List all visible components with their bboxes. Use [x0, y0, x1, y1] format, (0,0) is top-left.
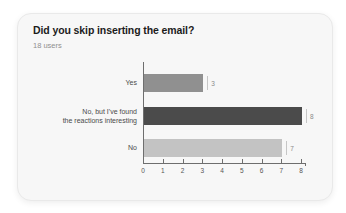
bar-value-marker	[207, 76, 208, 90]
x-tick	[143, 159, 144, 163]
x-tick	[242, 159, 243, 163]
bar-row: No7	[18, 139, 334, 157]
chart: Yes3No, but I've found the reactions int…	[18, 62, 334, 200]
bar-value-label: 7	[290, 145, 294, 152]
x-tick-label: 0	[137, 167, 149, 174]
bar-value-marker	[306, 109, 307, 123]
x-tick-label: 1	[157, 167, 169, 174]
bar-value-label: 3	[211, 80, 215, 87]
x-tick-label: 4	[216, 167, 228, 174]
bar	[144, 107, 302, 125]
x-tick-label: 3	[196, 167, 208, 174]
x-tick	[222, 159, 223, 163]
x-tick	[183, 159, 184, 163]
x-tick-label: 2	[177, 167, 189, 174]
bar-category-label: No	[18, 143, 137, 152]
bar-value-label: 8	[310, 112, 314, 119]
x-tick	[301, 159, 302, 163]
survey-result-card: Did you skip inserting the email? 18 use…	[17, 13, 333, 201]
bar-category-label: No, but I've found the reactions interes…	[18, 106, 137, 124]
bar	[144, 74, 203, 92]
x-tick	[281, 159, 282, 163]
bar-row: Yes3	[18, 74, 334, 92]
respondent-count: 18 users	[33, 41, 62, 50]
x-tick	[202, 159, 203, 163]
x-tick-label: 6	[256, 167, 268, 174]
x-tick-label: 5	[236, 167, 248, 174]
x-tick-label: 7	[275, 167, 287, 174]
bar-row: No, but I've found the reactions interes…	[18, 107, 334, 125]
x-axis-end-tick	[305, 163, 306, 166]
x-tick	[262, 159, 263, 163]
bar-category-label: Yes	[18, 78, 137, 87]
card-title: Did you skip inserting the email?	[33, 24, 194, 36]
x-axis-line	[143, 163, 306, 164]
x-tick	[163, 159, 164, 163]
bar	[144, 139, 282, 157]
bar-value-marker	[286, 141, 287, 155]
x-tick-label: 8	[295, 167, 307, 174]
